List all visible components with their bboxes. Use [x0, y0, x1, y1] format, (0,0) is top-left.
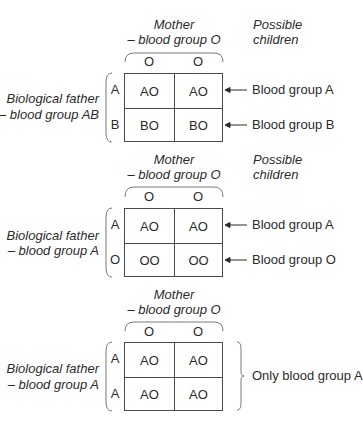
father-bracket	[106, 208, 112, 277]
right-brace	[237, 342, 244, 410]
father-bracket	[106, 342, 112, 411]
mother-bracket	[125, 322, 223, 331]
father-bracket	[106, 73, 112, 142]
mother-bracket	[125, 187, 223, 197]
mother-bracket	[125, 53, 223, 62]
